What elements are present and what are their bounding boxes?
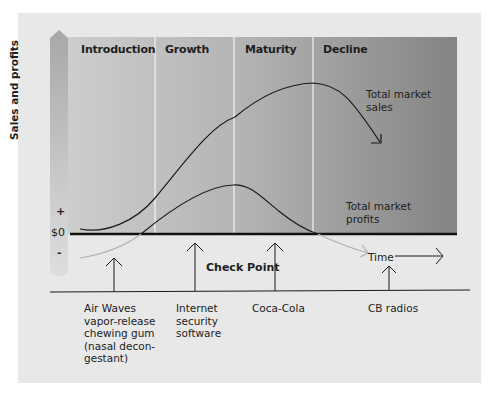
profits-label-line: Total market: [346, 200, 411, 213]
profits-negative-end: [318, 234, 368, 253]
example-line: Air Waves: [84, 302, 155, 315]
example-line: chewing gum: [84, 327, 155, 340]
checkpoint-arrow-icon: [382, 266, 396, 290]
example-line: CB radios: [368, 302, 418, 315]
example-growth: Internet security software: [176, 302, 221, 340]
stage-growth: Growth: [165, 43, 209, 56]
example-decline: CB radios: [368, 302, 418, 315]
example-line: software: [176, 327, 221, 340]
y-axis-label: Sales and profits: [8, 40, 20, 140]
zero-label: $0: [51, 226, 65, 239]
example-maturity: Coca-Cola: [252, 302, 305, 315]
time-label: Time: [368, 251, 394, 264]
sales-label-line: sales: [366, 101, 431, 114]
checkpoint-label: Check Point: [206, 261, 280, 274]
example-line: Coca-Cola: [252, 302, 305, 315]
product-life-cycle-diagram: [0, 0, 493, 393]
checkpoint-arrow-icon: [187, 243, 203, 291]
example-line: gestant): [84, 352, 155, 365]
profits-label: Total market profits: [346, 200, 411, 225]
stage-introduction: Introduction: [81, 43, 155, 56]
sales-label: Total market sales: [366, 88, 431, 113]
stage-maturity: Maturity: [245, 43, 296, 56]
profits-negative-start: [80, 234, 141, 258]
checkpoint-arrow-icon: [106, 258, 122, 292]
sales-label-line: Total market: [366, 88, 431, 101]
examples-baseline: [50, 290, 470, 292]
example-introduction: Air Waves vapor-release chewing gum (nas…: [84, 302, 155, 365]
profits-label-line: profits: [346, 213, 411, 226]
example-line: Internet: [176, 302, 221, 315]
example-line: security: [176, 315, 221, 328]
example-line: vapor-release: [84, 315, 155, 328]
y-axis-arrow-icon: [50, 30, 68, 277]
stage-decline: Decline: [323, 43, 368, 56]
plus-sign: +: [56, 205, 65, 218]
example-line: (nasal decon-: [84, 340, 155, 353]
minus-sign: -: [57, 246, 62, 259]
